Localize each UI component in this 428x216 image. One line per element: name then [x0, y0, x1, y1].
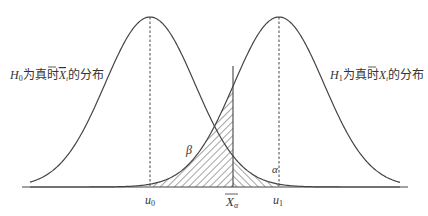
x-alpha-label: Xα — [225, 194, 239, 210]
alpha-label: α — [272, 163, 278, 175]
h1-distribution-label: H1为真时Xi的分布 — [329, 67, 424, 83]
u0-label: u0 — [145, 193, 155, 208]
u1-label: u1 — [273, 193, 283, 208]
hypothesis-test-diagram: H0为真时Xi的分布 H1为真时Xi的分布 β α u0 Xα u1 — [0, 0, 428, 216]
beta-label: β — [185, 143, 192, 157]
h0-distribution-label: H0为真时Xi的分布 — [9, 67, 104, 83]
